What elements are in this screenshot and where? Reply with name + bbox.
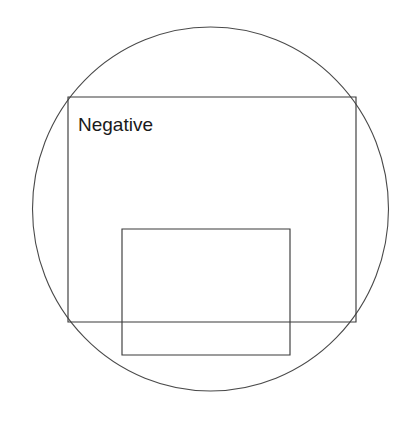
- diagram-canvas: Negative: [0, 0, 415, 422]
- diagram-svg: Negative: [0, 0, 415, 422]
- canvas-background: [0, 0, 415, 422]
- negative-label: Negative: [78, 114, 153, 135]
